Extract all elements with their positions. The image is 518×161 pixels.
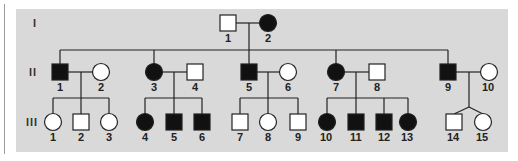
individual-i-2-female-affected: [260, 15, 277, 32]
label-iii-9: 9: [295, 131, 301, 143]
individual-ii-9-male-affected: [440, 64, 456, 80]
label-iii-1: 1: [50, 131, 56, 143]
label-iii-4: 4: [142, 131, 149, 143]
label-iii-5: 5: [171, 131, 177, 143]
label-iii-13: 13: [401, 131, 413, 143]
individual-iii-1-female-unaffected: [45, 114, 62, 131]
individual-ii-3-female-affected: [146, 64, 163, 81]
individual-iii-6-male-affected: [194, 114, 210, 130]
individual-iii-5-male-affected: [166, 114, 182, 130]
label-iii-8: 8: [265, 131, 271, 143]
individual-ii-1-male-affected: [52, 64, 68, 80]
label-i-1: 1: [225, 32, 231, 44]
label-ii-3: 3: [151, 81, 157, 93]
individual-ii-5-male-affected: [241, 64, 257, 80]
label-ii-6: 6: [285, 81, 291, 93]
individual-ii-8-male-unaffected: [369, 64, 385, 80]
label-iii-2: 2: [78, 131, 84, 143]
label-iii-7: 7: [237, 131, 243, 143]
individual-ii-6-female-unaffected: [280, 64, 297, 81]
label-iii-15: 15: [476, 131, 488, 143]
individual-ii-7-female-affected: [328, 64, 345, 81]
individual-iii-7-male-unaffected: [232, 114, 248, 130]
label-ii-7: 7: [333, 81, 339, 93]
label-ii-5: 5: [246, 81, 252, 93]
individual-iii-11-male-affected: [348, 114, 364, 130]
label-iii-3: 3: [106, 131, 112, 143]
label-ii-9: 9: [445, 81, 451, 93]
label-iii-11: 11: [350, 131, 362, 143]
label-iii-10: 10: [320, 131, 332, 143]
individual-iii-15-female-unaffected: [475, 114, 492, 131]
individual-iii-9-male-unaffected: [290, 114, 306, 130]
individual-iii-12-male-affected: [376, 114, 392, 130]
label-i-2: 2: [265, 32, 271, 44]
generation-label-i: I: [33, 17, 37, 29]
generation-label-iii: III: [26, 116, 38, 128]
label-ii-4: 4: [192, 81, 199, 93]
individual-ii-2-female-unaffected: [93, 64, 110, 81]
individual-iii-8-female-unaffected: [260, 114, 277, 131]
label-iii-12: 12: [378, 131, 390, 143]
individual-iii-14-male-unaffected: [446, 114, 462, 130]
label-ii-8: 8: [374, 81, 380, 93]
individual-iii-13-female-affected: [400, 114, 417, 131]
individual-ii-10-female-unaffected: [481, 64, 498, 81]
individual-i-1-male-unaffected: [220, 15, 236, 31]
label-ii-2: 2: [98, 81, 104, 93]
individual-iii-10-female-affected: [319, 114, 336, 131]
individual-iii-4-female-affected: [137, 114, 154, 131]
individual-iii-3-female-unaffected: [101, 114, 118, 131]
label-ii-10: 10: [482, 81, 494, 93]
generation-label-ii: II: [29, 66, 37, 78]
pedigree-chart: I II III 1 2 1 2 3 4 5 6 7 8 9 10 1 2 3 …: [0, 0, 518, 161]
label-ii-1: 1: [57, 81, 63, 93]
individual-ii-4-male-unaffected: [187, 64, 203, 80]
individual-iii-2-male-unaffected: [73, 114, 89, 130]
label-iii-14: 14: [447, 131, 460, 143]
label-iii-6: 6: [199, 131, 205, 143]
